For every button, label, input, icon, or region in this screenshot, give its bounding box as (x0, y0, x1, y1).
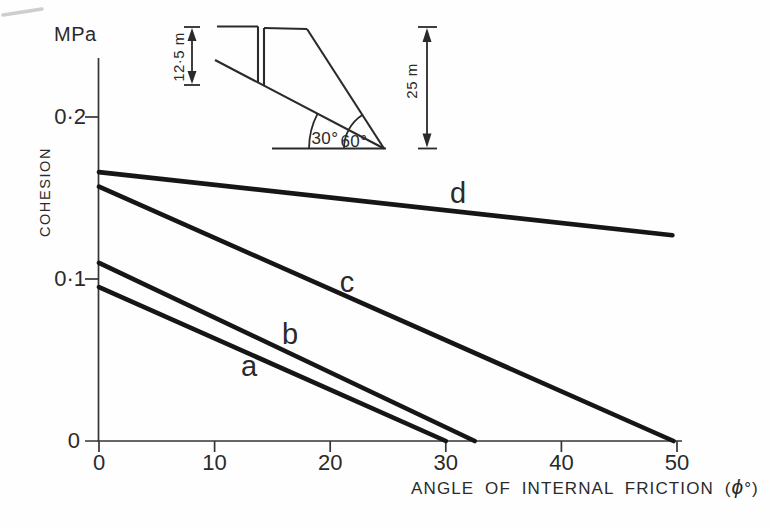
arrow-up-icon (188, 28, 197, 41)
x-tick-label: 40 (549, 450, 573, 475)
cohesion-vs-friction-chart: 00·10·2 01020304050 a b c d MPa COHESION… (0, 0, 771, 527)
slope-height-dimension: 25 m (403, 27, 437, 149)
y-axis-ticks: 00·10·2 (54, 104, 99, 453)
series-line-b (99, 263, 475, 441)
axes (85, 58, 682, 442)
crack-depth-label: 12·5 m (170, 32, 187, 82)
y-axis-unit-label: MPa (54, 23, 97, 45)
failure-plane-angle-label: 30° (311, 129, 338, 148)
phi-symbol: ϕ (731, 475, 744, 498)
x-axis-title-degree: °) (744, 479, 759, 498)
slope-height-label: 25 m (403, 63, 420, 98)
x-axis-ticks: 01020304050 (93, 441, 689, 475)
y-tick-label: 0 (68, 428, 80, 453)
slope-face-angle-label: 60° (340, 132, 367, 151)
arrow-down-icon (188, 71, 197, 84)
arrow-down-icon (423, 134, 432, 148)
arrow-up-icon (423, 28, 432, 42)
scan-smudge-mark (3, 9, 42, 15)
series-label-c: c (340, 266, 355, 298)
x-tick-label: 10 (202, 450, 226, 475)
x-axis-title-text: ANGLE OF INTERNAL FRICTION ( (411, 479, 731, 498)
x-tick-label: 0 (93, 450, 105, 475)
x-axis-title: ANGLE OF INTERNAL FRICTION (ϕ°) (411, 475, 759, 498)
inset-upper-surface-right (264, 28, 307, 29)
x-tick-label: 30 (434, 450, 458, 475)
series-label-d: d (450, 177, 466, 209)
y-axis-title: COHESION (37, 147, 53, 237)
y-tick-label: 0·2 (54, 104, 86, 129)
series-label-b: b (282, 318, 298, 350)
series-lines (99, 172, 674, 441)
series-line-a (99, 287, 446, 441)
x-tick-label: 20 (318, 450, 342, 475)
figure: 00·10·2 01020304050 a b c d MPa COHESION… (0, 0, 771, 527)
series-label-a: a (241, 350, 258, 382)
slope-inset-diagram: 30° 60° 12·5 m 25 m (170, 27, 437, 152)
y-tick-label: 0·1 (54, 266, 86, 291)
crack-depth-dimension: 12·5 m (170, 27, 200, 85)
x-tick-label: 50 (665, 450, 689, 475)
